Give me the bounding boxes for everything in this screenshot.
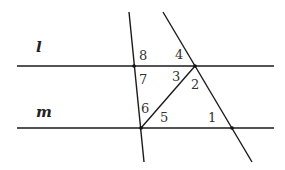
line-label-m: m	[36, 103, 52, 121]
line-label-l: l	[36, 38, 42, 56]
intersection-point-right-l	[193, 64, 197, 68]
angle-label-3: 3	[172, 69, 180, 84]
intersection-point-left-l	[132, 64, 136, 68]
geometry-diagram: l m 8 4 7 3 2 6 5 1	[0, 0, 285, 170]
diagram-canvas: l m 8 4 7 3 2 6 5 1	[0, 0, 285, 170]
angle-label-1: 1	[208, 110, 216, 125]
angle-label-4: 4	[175, 47, 183, 62]
intersection-point-right-m	[230, 126, 234, 130]
left-transversal	[129, 12, 144, 162]
angle-label-2: 2	[191, 77, 199, 92]
angle-label-5: 5	[160, 110, 168, 125]
angle-label-7: 7	[139, 72, 147, 87]
angle-label-6: 6	[141, 101, 149, 116]
intersection-point-left-m	[139, 126, 143, 130]
angle-label-8: 8	[139, 48, 147, 63]
